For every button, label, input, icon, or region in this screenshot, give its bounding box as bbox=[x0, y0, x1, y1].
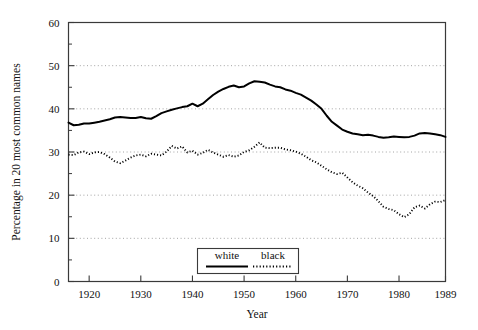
chart-legend: white black bbox=[198, 249, 299, 274]
x-tick-label-1950: 1950 bbox=[233, 288, 256, 300]
series-line-white bbox=[69, 81, 446, 138]
legend-label-black: black bbox=[261, 249, 285, 261]
x-tick-label-1989: 1989 bbox=[435, 288, 458, 300]
x-tick-label-1980: 1980 bbox=[388, 288, 411, 300]
y-axis-major-ticks bbox=[69, 23, 75, 282]
data-series-group bbox=[69, 81, 446, 217]
legend-label-white: white bbox=[215, 249, 240, 261]
series-line-black bbox=[69, 143, 446, 218]
y-axis-title: Percentage in 20 most common names bbox=[10, 63, 23, 241]
y-tick-label-30: 30 bbox=[49, 146, 61, 158]
y-tick-label-40: 40 bbox=[49, 103, 61, 115]
x-tick-label-1930: 1930 bbox=[130, 288, 153, 300]
y-tick-label-50: 50 bbox=[49, 60, 61, 72]
x-tick-label-1960: 1960 bbox=[285, 288, 308, 300]
x-axis-tick-labels: 19201930194019501960197019801989 bbox=[78, 288, 457, 300]
x-axis-title: Year bbox=[246, 308, 267, 320]
y-tick-label-0: 0 bbox=[54, 276, 60, 288]
x-axis-ticks bbox=[89, 276, 445, 282]
y-tick-label-20: 20 bbox=[49, 189, 61, 201]
y-tick-label-10: 10 bbox=[49, 232, 61, 244]
x-tick-label-1970: 1970 bbox=[336, 288, 359, 300]
line-chart: 0102030405060 19201930194019501960197019… bbox=[0, 0, 478, 330]
y-axis-tick-labels: 0102030405060 bbox=[49, 17, 61, 288]
gridlines bbox=[69, 66, 445, 239]
chart-figure: 0102030405060 19201930194019501960197019… bbox=[0, 0, 478, 330]
x-tick-label-1920: 1920 bbox=[78, 288, 101, 300]
x-tick-label-1940: 1940 bbox=[181, 288, 204, 300]
y-tick-label-60: 60 bbox=[49, 17, 61, 29]
